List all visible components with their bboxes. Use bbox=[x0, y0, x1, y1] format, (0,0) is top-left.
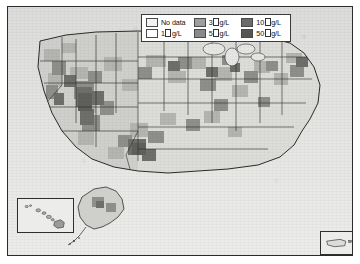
legend-item-3: 3g/L bbox=[194, 18, 239, 27]
micro-sign-tofu-glyph bbox=[213, 29, 219, 37]
legend-swatch-5 bbox=[194, 29, 206, 38]
legend-item-1: 1g/L bbox=[146, 29, 191, 38]
hawaii-inset bbox=[17, 198, 74, 233]
alaska-inset bbox=[64, 183, 138, 255]
legend-item-5: 5g/L bbox=[194, 29, 239, 38]
legend-label-50: 50g/L bbox=[256, 29, 281, 38]
legend-label-10: 10g/L bbox=[256, 18, 281, 27]
legend-item-no-data: No data bbox=[146, 18, 191, 27]
legend-swatch-10 bbox=[241, 18, 253, 27]
legend-swatch-50 bbox=[241, 29, 253, 38]
legend-grid: No data 3g/L 10g/L 1g/L 5g/L 50g/L bbox=[146, 18, 286, 38]
micro-sign-tofu-glyph bbox=[265, 18, 271, 26]
contiguous-us-map bbox=[18, 27, 336, 187]
legend-item-50: 50g/L bbox=[241, 29, 286, 38]
map-figure: No data 3g/L 10g/L 1g/L 5g/L 50g/L bbox=[7, 6, 353, 256]
puerto-rico-inset bbox=[320, 231, 353, 255]
legend-label-1: 1g/L bbox=[161, 29, 182, 38]
legend-label-no-data: No data bbox=[161, 18, 185, 27]
legend-label-5: 5g/L bbox=[209, 29, 230, 38]
map-legend: No data 3g/L 10g/L 1g/L 5g/L 50g/L bbox=[141, 14, 291, 42]
legend-swatch-3 bbox=[194, 18, 206, 27]
legend-swatch-no-data bbox=[146, 18, 158, 27]
micro-sign-tofu-glyph bbox=[213, 18, 219, 26]
micro-sign-tofu-glyph bbox=[265, 29, 271, 37]
micro-sign-tofu-glyph bbox=[165, 29, 171, 37]
legend-label-3: 3g/L bbox=[209, 18, 230, 27]
legend-swatch-1 bbox=[146, 29, 158, 38]
legend-item-10: 10g/L bbox=[241, 18, 286, 27]
